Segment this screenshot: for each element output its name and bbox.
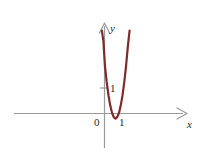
y-axis-label: y xyxy=(109,22,115,34)
x-tick-label-one: 1 xyxy=(119,116,125,128)
parabola-curve xyxy=(102,31,130,119)
origin-label: 0 xyxy=(94,116,100,128)
x-axis-label: x xyxy=(186,118,192,130)
y-tick-label-one: 1 xyxy=(110,82,116,94)
plot-canvas: y x 0 1 1 xyxy=(0,0,200,155)
parabola-graph-figure: y x 0 1 1 xyxy=(0,0,200,155)
